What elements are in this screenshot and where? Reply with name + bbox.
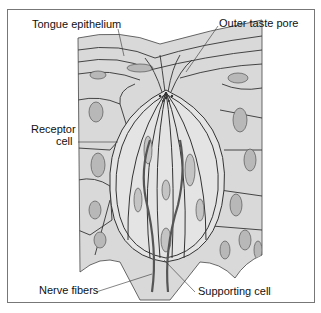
label-tongue-epithelium: Tongue epithelium xyxy=(32,18,121,30)
label-outer-taste-pore: Outer taste pore xyxy=(219,17,299,29)
label-receptor-cell-line2: cell xyxy=(56,135,73,147)
label-supporting-cell: Supporting cell xyxy=(198,285,271,297)
taste-bud-illustration xyxy=(0,0,321,313)
label-nerve-fibers: Nerve fibers xyxy=(39,284,98,296)
label-receptor-cell-line1: Receptor xyxy=(31,123,76,135)
